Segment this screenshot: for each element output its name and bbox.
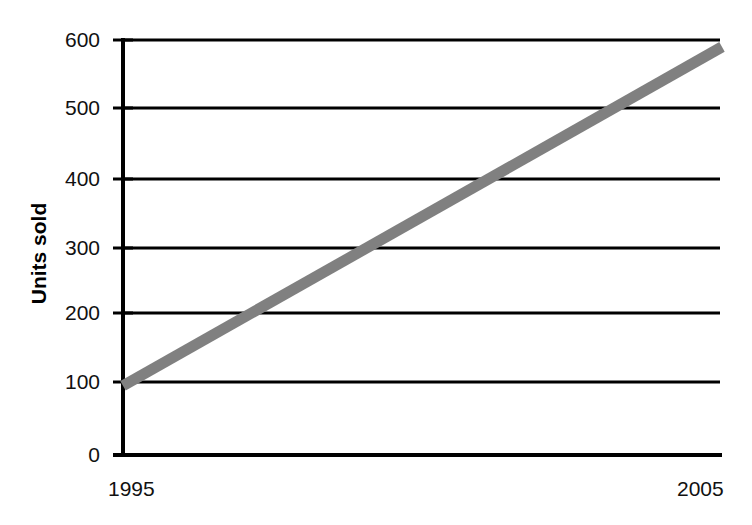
x-tick-label-2005: 2005 — [677, 478, 724, 499]
y-tick-label-100: 100 — [40, 371, 100, 392]
y-tick-label-0: 0 — [40, 444, 100, 465]
y-tick-label-400: 400 — [40, 168, 100, 189]
data-series-line — [123, 47, 722, 386]
y-tick-label-600: 600 — [40, 29, 100, 50]
y-axis-title: Units sold — [28, 202, 49, 306]
chart-canvas — [0, 0, 752, 525]
y-tick-label-200: 200 — [40, 302, 100, 323]
y-tick-label-500: 500 — [40, 97, 100, 118]
x-tick-label-1995: 1995 — [108, 478, 155, 499]
line-chart: 600 500 400 300 200 100 0 1995 2005 Unit… — [0, 0, 752, 525]
